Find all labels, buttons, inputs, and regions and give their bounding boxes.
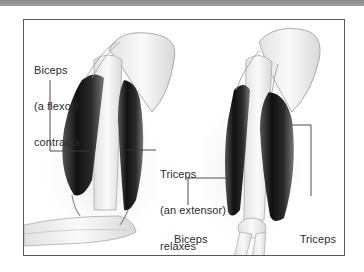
label-line: Biceps (174, 233, 210, 245)
label-line: Triceps (286, 233, 336, 245)
label-line: Triceps (160, 168, 226, 180)
label-biceps-contracts: Biceps (a flexor) contracts (34, 40, 80, 172)
label-line: (a flexor) (34, 100, 80, 112)
label-line: Biceps (34, 64, 80, 76)
top-border-bar (0, 0, 364, 6)
label-biceps-relaxes: Biceps relaxes (174, 209, 210, 256)
label-line: contracts (34, 136, 80, 148)
figure-frame: Biceps (a flexor) contracts Triceps (an … (23, 19, 345, 256)
label-triceps-contracts: Triceps contracts (286, 209, 336, 256)
